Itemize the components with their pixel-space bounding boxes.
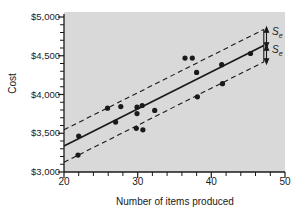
data-point (140, 127, 145, 132)
data-point (194, 70, 199, 75)
y-tick-label: $3,500 (6, 127, 60, 138)
data-point (118, 104, 123, 109)
data-point (76, 134, 81, 139)
data-point (105, 106, 110, 111)
data-point (190, 56, 195, 61)
y-tick-label: $5,000 (6, 11, 60, 22)
se-label-lower: Se (272, 44, 283, 57)
data-point (182, 56, 187, 61)
x-tick-label: 20 (49, 176, 79, 187)
data-point (152, 108, 157, 113)
x-tick-label: 30 (123, 176, 153, 187)
data-point (220, 81, 225, 86)
scatter-plot-figure: Se Se $5,000 $4,500 $4,000 $3,500 $3,000… (0, 0, 301, 217)
data-point (134, 104, 139, 109)
data-point (134, 111, 139, 116)
y-axis-label: Cost (7, 54, 18, 114)
x-tick-label: 50 (270, 176, 300, 187)
data-point (75, 153, 80, 158)
x-major-ticks (64, 172, 285, 178)
se-label-lower-sub: e (279, 50, 283, 57)
data-point (219, 62, 224, 67)
plot-background (64, 12, 285, 172)
x-axis-label: Number of items produced (64, 196, 286, 207)
data-point (134, 126, 139, 131)
data-point (195, 94, 200, 99)
x-tick-label: 40 (196, 176, 226, 187)
se-label-upper-sub: e (279, 32, 283, 39)
se-label-upper: Se (272, 26, 283, 39)
data-point (140, 103, 145, 108)
data-point (113, 120, 118, 125)
se-label-lower-text: S (272, 44, 279, 55)
data-point (248, 51, 253, 56)
se-label-upper-text: S (272, 26, 279, 37)
